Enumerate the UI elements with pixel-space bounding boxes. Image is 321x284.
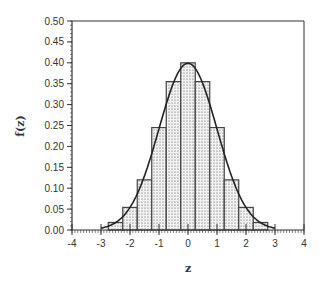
normal-distribution-chart: 0.000.050.100.150.200.250.300.350.400.45… (0, 0, 321, 284)
x-tick-label: 0 (185, 238, 191, 249)
x-axis-label: z (185, 262, 191, 275)
y-tick-label: 0.25 (45, 120, 65, 131)
x-tick-label: 4 (301, 238, 307, 249)
histogram-bar (166, 82, 181, 230)
y-tick-label: 0.35 (45, 78, 65, 89)
y-tick-label: 0.30 (45, 99, 65, 110)
y-tick-label: 0.15 (45, 162, 65, 173)
y-tick-label: 0.05 (45, 204, 65, 215)
histogram-bar (181, 63, 196, 230)
y-tick-label: 0.00 (45, 225, 65, 236)
x-tick-label: -4 (68, 238, 77, 249)
y-tick-label: 0.40 (45, 57, 65, 68)
histogram-bar (210, 128, 225, 230)
x-tick-label: -2 (126, 238, 135, 249)
y-tick-label: 0.10 (45, 183, 65, 194)
x-tick-label: -3 (97, 238, 106, 249)
histogram-bar (195, 82, 210, 230)
x-tick-label: -1 (155, 238, 164, 249)
histogram-bar (152, 128, 167, 230)
y-tick-label: 0.50 (45, 16, 65, 27)
x-tick-label: 2 (243, 238, 249, 249)
y-tick-label: 0.20 (45, 141, 65, 152)
y-axis-label: f(z) (14, 115, 27, 136)
y-tick-label: 0.45 (45, 36, 65, 47)
x-tick-label: 3 (272, 238, 278, 249)
x-tick-label: 1 (214, 238, 220, 249)
